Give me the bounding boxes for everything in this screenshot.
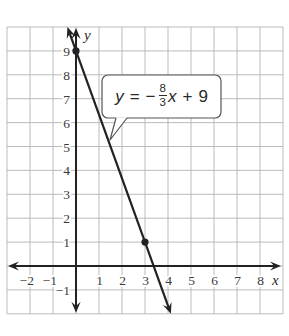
plotted-point <box>141 239 148 246</box>
plotted-point <box>72 47 79 54</box>
y-axis-label: y <box>82 27 91 43</box>
x-tick-label: 1 <box>96 273 103 288</box>
equation-constant: 9 <box>198 87 207 107</box>
y-tick-label: 9 <box>63 44 70 59</box>
x-tick-label: 2 <box>119 273 126 288</box>
y-tick-label: 1 <box>63 235 70 250</box>
x-tick-label: −2 <box>20 273 34 288</box>
x-axis-label: x <box>271 272 279 288</box>
equation-minus: − <box>146 87 156 107</box>
x-tick-label: 3 <box>142 273 149 288</box>
y-tick-label: 3 <box>63 187 70 202</box>
equation-plus: + <box>182 87 192 107</box>
y-tick-label: 5 <box>63 140 70 155</box>
y-tick-label: 8 <box>63 68 70 83</box>
y-tick-label: 6 <box>63 116 70 131</box>
equation-fraction: 8 3 <box>159 83 167 108</box>
x-tick-label: 4 <box>165 273 172 288</box>
grid <box>7 27 283 314</box>
y-tick-label: 4 <box>63 163 70 178</box>
x-tick-label: 8 <box>257 273 264 288</box>
fraction-numerator: 8 <box>159 83 167 96</box>
graph-figure: −2−112345678−1123456789yx y = − 8 3 x + … <box>0 0 289 336</box>
equation-callout: y = − 8 3 x + 9 <box>102 75 221 118</box>
equation-equals: = <box>130 87 140 107</box>
equation-var-y: y <box>115 87 124 107</box>
x-tick-label: 7 <box>234 273 241 288</box>
x-tick-label: 5 <box>188 273 195 288</box>
coordinate-plane: −2−112345678−1123456789yx <box>0 0 289 336</box>
y-tick-label: 7 <box>63 92 70 107</box>
x-tick-label: 6 <box>211 273 218 288</box>
fraction-denominator: 3 <box>160 96 166 108</box>
y-tick-label: −1 <box>56 283 70 298</box>
y-tick-label: 2 <box>63 211 70 226</box>
equation-var-x: x <box>168 87 177 107</box>
